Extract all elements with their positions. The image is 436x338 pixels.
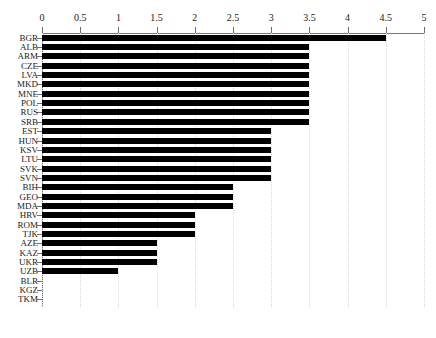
bar-uzb xyxy=(42,268,118,274)
x-tick-label: 2 xyxy=(192,12,197,23)
plot-area xyxy=(42,33,424,320)
x-tick-label: 3 xyxy=(269,12,274,23)
bar-svn xyxy=(42,175,271,181)
gridline xyxy=(424,33,425,307)
bar-lva xyxy=(42,72,309,78)
bar-rom xyxy=(42,222,195,228)
x-tick-label: 1.5 xyxy=(150,12,163,23)
bar-geo xyxy=(42,194,233,200)
bar-mne xyxy=(42,91,309,97)
bar-pol xyxy=(42,100,309,106)
x-tick-label: 3.5 xyxy=(303,12,316,23)
category-label: TKM xyxy=(18,294,38,304)
bar-ltu xyxy=(42,156,271,162)
bar-hun xyxy=(42,138,271,144)
bar-bgr xyxy=(42,35,386,41)
bar-alb xyxy=(42,44,309,50)
bar-ksv xyxy=(42,147,271,153)
gridline xyxy=(348,33,349,307)
x-tick-label: 4.5 xyxy=(380,12,393,23)
x-tick-label: 5 xyxy=(422,12,427,23)
bar-mkd xyxy=(42,81,309,87)
bar-svk xyxy=(42,166,271,172)
bar-mda xyxy=(42,203,233,209)
bar-ukr xyxy=(42,259,157,265)
bar-est xyxy=(42,128,271,134)
x-tick-label: 2.5 xyxy=(227,12,240,23)
bar-arm xyxy=(42,53,309,59)
bar-kaz xyxy=(42,250,157,256)
x-tick-label: 1 xyxy=(116,12,121,23)
x-tick-label: 4 xyxy=(345,12,350,23)
x-tick-label: 0.5 xyxy=(74,12,87,23)
bar-chart-figure: 00.511.522.533.544.55 BGRALBARMCZELVAMKD… xyxy=(0,0,436,338)
gridline xyxy=(386,33,387,307)
bar-srb xyxy=(42,119,309,125)
bar-cze xyxy=(42,63,309,69)
bar-bih xyxy=(42,184,233,190)
bar-aze xyxy=(42,240,157,246)
bar-hrv xyxy=(42,212,195,218)
bar-tjk xyxy=(42,231,195,237)
gridline xyxy=(309,33,310,307)
bar-rus xyxy=(42,109,309,115)
x-tick-label: 0 xyxy=(40,12,45,23)
